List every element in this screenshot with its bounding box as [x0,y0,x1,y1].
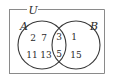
element-a-only-1: 2 [30,33,36,43]
element-a-only-3: 11 [26,50,37,60]
element-b-only-2: 15 [70,50,82,60]
element-a-only-2: 7 [41,33,47,43]
element-b-only-1: 1 [71,32,77,42]
venn-diagram-figure: U A B 2 7 11 13 3 5 1 15 [0,0,113,83]
set-b-label: B [89,20,98,33]
venn-diagram-svg: U A B 2 7 11 13 3 5 1 15 [0,0,113,83]
element-a-only-4: 13 [40,50,52,60]
element-intersection-1: 3 [56,32,62,42]
element-intersection-2: 5 [56,49,62,59]
set-a-label: A [19,20,28,33]
universe-label: U [29,4,39,17]
